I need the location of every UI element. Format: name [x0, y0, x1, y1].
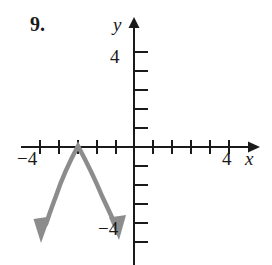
- y-axis-tick-label-positive-four: 4: [110, 46, 120, 68]
- curve-left-arrowhead-icon: [34, 217, 51, 244]
- y-axis-ticks-negative: [134, 166, 148, 242]
- y-axis-tick-label-negative-four: −4: [98, 218, 118, 240]
- parabola-curve: [46, 146, 115, 224]
- coordinate-plane: [0, 0, 272, 265]
- graph-figure: 9.: [0, 0, 272, 265]
- x-axis-tick-label-negative-four: −4: [17, 148, 37, 170]
- y-axis-label: y: [113, 14, 121, 36]
- problem-number: 9.: [30, 13, 45, 36]
- y-axis-ticks-positive: [134, 52, 148, 128]
- x-axis-tick-label-positive-four: 4: [222, 148, 232, 170]
- x-axis-label: x: [245, 148, 253, 170]
- y-axis-arrowhead-icon: [129, 17, 140, 28]
